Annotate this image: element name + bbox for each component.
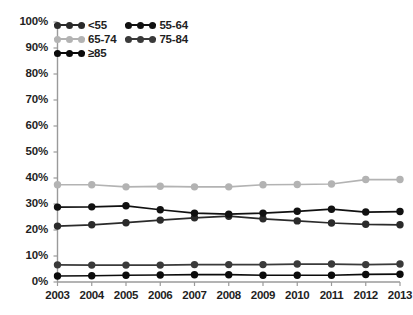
legend-marker-icon xyxy=(54,34,85,44)
data-point-marker xyxy=(54,203,61,210)
legend-entry[interactable]: <55 xyxy=(54,18,116,32)
legend-marker-icon xyxy=(54,48,85,58)
data-point-marker xyxy=(259,272,266,279)
x-axis-tick-label: 2011 xyxy=(314,289,350,301)
legend-label: 55-64 xyxy=(159,19,187,31)
data-point-marker xyxy=(294,260,301,267)
y-axis-tick-label: 40% xyxy=(6,171,48,183)
y-axis-tick-label: 10% xyxy=(6,249,48,261)
data-point-marker xyxy=(122,272,129,279)
legend-marker-icon xyxy=(125,20,156,30)
data-point-marker xyxy=(54,272,61,279)
data-point-marker xyxy=(191,261,198,268)
data-point-marker xyxy=(157,183,164,190)
data-point-marker xyxy=(122,183,129,190)
data-point-marker xyxy=(294,208,301,215)
data-point-marker xyxy=(396,260,403,267)
x-axis-tick-label: 2008 xyxy=(211,289,247,301)
data-point-marker xyxy=(396,176,403,183)
legend-label: 75-84 xyxy=(159,33,187,45)
data-point-marker xyxy=(225,210,232,217)
y-axis-tick-label: 90% xyxy=(6,41,48,53)
y-axis-tick-label: 60% xyxy=(6,119,48,131)
series-85 xyxy=(54,271,404,280)
x-axis-tick-label: 2010 xyxy=(279,289,315,301)
data-point-marker xyxy=(122,261,129,268)
data-point-marker xyxy=(54,261,61,268)
y-axis-tick-label: 30% xyxy=(6,197,48,209)
series-6574 xyxy=(54,176,404,191)
legend-entry[interactable]: ≥85 xyxy=(54,46,116,60)
data-point-marker xyxy=(328,206,335,213)
data-point-marker xyxy=(225,183,232,190)
data-point-marker xyxy=(294,181,301,188)
data-point-marker xyxy=(225,271,232,278)
legend-marker-icon xyxy=(125,34,156,44)
y-axis-tick-label: 0% xyxy=(6,275,48,287)
data-point-marker xyxy=(362,176,369,183)
legend-label: <55 xyxy=(88,19,107,31)
data-point-marker xyxy=(88,181,95,188)
data-point-marker xyxy=(191,271,198,278)
x-axis-tick-label: 2013 xyxy=(382,289,413,301)
x-axis-tick-label: 2006 xyxy=(142,289,178,301)
legend-label: ≥85 xyxy=(88,47,107,59)
legend-marker-icon xyxy=(54,20,85,30)
y-axis-tick-label: 80% xyxy=(6,67,48,79)
data-point-marker xyxy=(88,272,95,279)
data-point-marker xyxy=(294,272,301,279)
x-axis-tick-label: 2003 xyxy=(40,289,76,301)
series-layer xyxy=(54,176,404,280)
series-7584 xyxy=(54,260,404,268)
legend-entry[interactable]: 55-64 xyxy=(125,18,187,32)
x-axis-tick-label: 2005 xyxy=(108,289,144,301)
chart-legend: <5555-6465-7475-84≥85 xyxy=(54,18,188,60)
data-point-marker xyxy=(396,208,403,215)
data-point-marker xyxy=(259,181,266,188)
data-point-marker xyxy=(396,271,403,278)
x-axis-tick-label: 2009 xyxy=(245,289,281,301)
data-point-marker xyxy=(157,271,164,278)
data-point-marker xyxy=(157,206,164,213)
data-point-marker xyxy=(362,261,369,268)
line-chart: 0%10%20%30%40%50%60%70%80%90%100% 200320… xyxy=(0,0,413,315)
data-point-marker xyxy=(362,221,369,228)
y-axis-tick-label: 100% xyxy=(6,15,48,27)
axis-lines xyxy=(58,22,401,282)
data-point-marker xyxy=(362,271,369,278)
legend-label: 65-74 xyxy=(88,33,116,45)
y-axis-tick-label: 70% xyxy=(6,93,48,105)
data-point-marker xyxy=(191,209,198,216)
x-axis-tick-label: 2004 xyxy=(74,289,110,301)
y-axis-tick-label: 20% xyxy=(6,223,48,235)
data-point-marker xyxy=(328,260,335,267)
data-point-marker xyxy=(157,261,164,268)
x-axis-tick-label: 2007 xyxy=(177,289,213,301)
data-point-marker xyxy=(54,181,61,188)
data-point-marker xyxy=(157,216,164,223)
data-point-marker xyxy=(328,272,335,279)
data-point-marker xyxy=(88,221,95,228)
data-point-marker xyxy=(396,221,403,228)
data-point-marker xyxy=(54,222,61,229)
y-axis-tick-label: 50% xyxy=(6,145,48,157)
data-point-marker xyxy=(259,209,266,216)
series-5564 xyxy=(54,202,404,218)
data-point-marker xyxy=(294,217,301,224)
data-point-marker xyxy=(259,261,266,268)
data-point-marker xyxy=(362,208,369,215)
data-point-marker xyxy=(88,203,95,210)
data-point-marker xyxy=(328,180,335,187)
data-point-marker xyxy=(122,219,129,226)
data-point-marker xyxy=(225,261,232,268)
data-point-marker xyxy=(191,183,198,190)
x-axis-tick-label: 2012 xyxy=(348,289,384,301)
legend-entry[interactable]: 75-84 xyxy=(125,32,187,46)
legend-entry[interactable]: 65-74 xyxy=(54,32,116,46)
data-point-marker xyxy=(88,261,95,268)
data-point-marker xyxy=(122,202,129,209)
data-point-marker xyxy=(328,219,335,226)
